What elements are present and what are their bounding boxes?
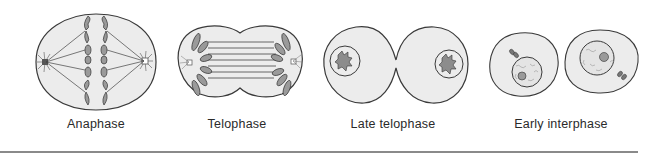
telophase-label: Telophase xyxy=(208,117,267,131)
mitosis-stages-figure: Anaphase Telophase Late telophase Early … xyxy=(0,0,672,157)
early-interphase-label: Early interphase xyxy=(514,117,608,131)
late-telophase-label: Late telophase xyxy=(351,117,436,131)
mitosis-illustration xyxy=(0,0,672,157)
telophase-cell xyxy=(178,26,302,97)
anaphase-label: Anaphase xyxy=(67,117,125,131)
late-telophase-cells xyxy=(324,27,468,103)
early-interphase-cells xyxy=(490,30,638,96)
anaphase-cell xyxy=(36,14,156,110)
bottom-divider xyxy=(0,151,638,153)
